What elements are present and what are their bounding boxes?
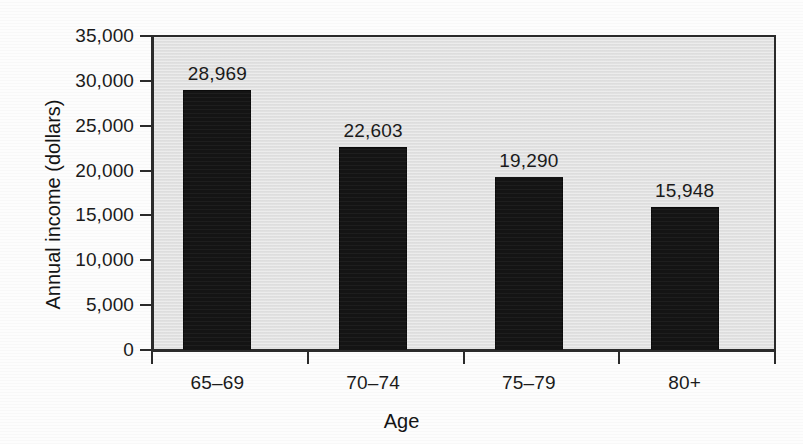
bar-value-label: 28,969	[188, 63, 247, 85]
y-axis-tick-label: 35,000	[34, 25, 134, 47]
bar	[183, 90, 251, 350]
x-axis-tick-label: 70–74	[346, 372, 400, 394]
bar	[495, 177, 563, 350]
y-axis-tick	[140, 214, 152, 216]
plot-top-border	[152, 35, 776, 37]
bar-value-label: 15,948	[655, 180, 714, 202]
x-axis-tick-label: 65–69	[190, 372, 244, 394]
x-axis-tick-label: 80+	[668, 372, 701, 394]
bar-chart-figure: 05,00010,00015,00020,00025,00030,00035,0…	[0, 0, 803, 444]
x-axis-tick-label: 75–79	[502, 372, 556, 394]
bar	[339, 147, 407, 350]
x-axis-title: Age	[0, 410, 803, 433]
bar-value-label: 19,290	[499, 150, 558, 172]
y-axis-tick	[140, 259, 152, 261]
bar-value-label: 22,603	[343, 120, 402, 142]
y-axis-tick	[140, 304, 152, 306]
plot-right-border	[774, 35, 776, 351]
x-axis-tick	[463, 351, 465, 364]
x-axis-tick	[774, 351, 776, 364]
y-axis-tick	[140, 125, 152, 127]
x-axis-tick	[618, 351, 620, 364]
y-axis-title: Annual income (dollars)	[42, 60, 65, 350]
y-axis-tick	[140, 35, 152, 37]
x-axis-tick	[307, 351, 309, 364]
bar	[651, 207, 719, 350]
y-axis-tick	[140, 170, 152, 172]
x-axis-tick	[151, 351, 153, 364]
y-axis-tick	[140, 80, 152, 82]
